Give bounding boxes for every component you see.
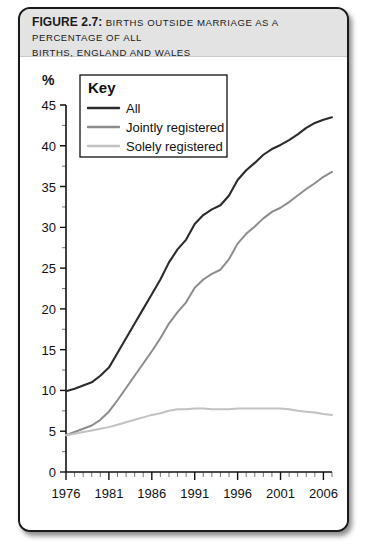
series-line-all bbox=[66, 117, 332, 391]
x-tick-label: 2001 bbox=[266, 486, 295, 501]
chart-plot-area: % 051015202530354045 1976198119861991199… bbox=[20, 57, 347, 530]
series-line-solely-registered bbox=[66, 408, 332, 435]
x-tick-label: 1976 bbox=[52, 486, 81, 501]
y-tick-label: 30 bbox=[42, 220, 56, 235]
y-tick-label: 0 bbox=[49, 465, 56, 480]
x-axis-ticks: 1976198119861991199620012006 bbox=[52, 472, 338, 501]
x-tick-label: 1986 bbox=[137, 486, 166, 501]
legend-heading: Key bbox=[88, 79, 116, 96]
x-tick-label: 2006 bbox=[309, 486, 338, 501]
figure-card: FIGURE 2.7: BIRTHS OUTSIDE MARRIAGE AS A… bbox=[18, 7, 349, 532]
figure-number: FIGURE 2.7: bbox=[32, 15, 102, 29]
y-tick-label: 25 bbox=[42, 261, 56, 276]
y-tick-label: 35 bbox=[42, 180, 56, 195]
legend-key-box: Key AllJointly registeredSolely register… bbox=[80, 75, 227, 157]
figure-title-line-1: FIGURE 2.7: BIRTHS OUTSIDE MARRIAGE AS A… bbox=[32, 15, 337, 45]
y-axis-unit-label: % bbox=[42, 72, 55, 88]
y-axis-ticks: 051015202530354045 bbox=[42, 98, 66, 480]
legend-label-jointly-registered: Jointly registered bbox=[126, 120, 224, 135]
line-chart: % 051015202530354045 1976198119861991199… bbox=[20, 57, 349, 532]
x-tick-label: 1981 bbox=[94, 486, 123, 501]
y-tick-label: 10 bbox=[42, 383, 56, 398]
legend-label-all: All bbox=[126, 101, 141, 116]
x-tick-label: 1991 bbox=[180, 486, 209, 501]
y-tick-label: 15 bbox=[42, 343, 56, 358]
y-tick-label: 5 bbox=[49, 424, 56, 439]
x-tick-label: 1996 bbox=[223, 486, 252, 501]
data-series-group bbox=[66, 117, 332, 435]
series-line-jointly-registered bbox=[66, 172, 332, 435]
y-tick-label: 40 bbox=[42, 139, 56, 154]
legend-label-solely-registered: Solely registered bbox=[126, 139, 223, 154]
y-tick-label: 45 bbox=[42, 98, 56, 113]
figure-title-band: FIGURE 2.7: BIRTHS OUTSIDE MARRIAGE AS A… bbox=[20, 9, 347, 57]
y-tick-label: 20 bbox=[42, 302, 56, 317]
